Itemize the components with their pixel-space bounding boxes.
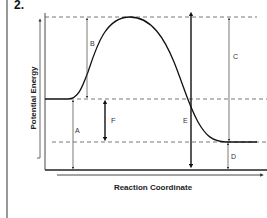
y-axis-label: Potential Energy xyxy=(29,66,38,130)
label-d: D xyxy=(231,153,236,160)
label-e: E xyxy=(183,117,188,124)
label-b: B xyxy=(90,40,95,47)
label-c: C xyxy=(233,53,238,60)
label-f: F xyxy=(111,116,116,125)
potential-energy-diagram: 2. Potential Energy A B F E C D Reaction… xyxy=(0,0,267,218)
energy-curve xyxy=(45,17,257,142)
label-a: A xyxy=(75,127,80,134)
x-axis-label: Reaction Coordinate xyxy=(114,183,193,192)
question-number: 2. xyxy=(14,0,24,12)
